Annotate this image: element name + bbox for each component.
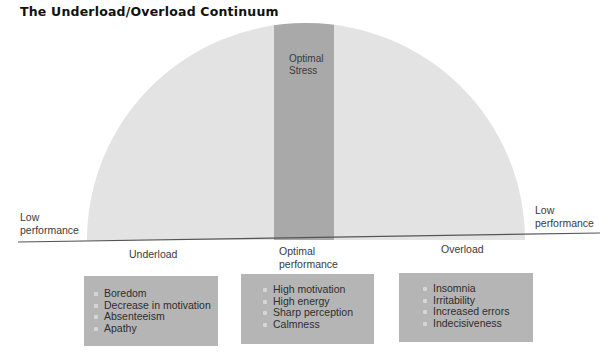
list-item: Increased errors — [423, 306, 527, 318]
right-label-line2: performance — [535, 217, 594, 230]
list-item: Insomnia — [423, 283, 527, 295]
optimal-stress-label: Optimal Stress — [289, 53, 323, 77]
right-label-line1: Low — [535, 204, 594, 217]
optimal-traits-box: High motivation High energy Sharp percep… — [241, 274, 374, 344]
list-item: Sharp perception — [263, 307, 368, 319]
list-item: Boredom — [94, 288, 212, 300]
optimal-performance-label: Optimal performance — [279, 245, 338, 271]
overload-symptoms-box: Insomnia Irritability Increased errors I… — [399, 273, 533, 342]
optimal-stress-line2: Stress — [289, 65, 323, 77]
optimal-stress-band — [274, 0, 334, 240]
list-item: Absenteeism — [94, 311, 212, 323]
left-label-line2: performance — [20, 224, 79, 237]
overload-label: Overload — [441, 243, 484, 256]
underload-symptoms-list: Boredom Decrease in motivation Absenteei… — [94, 288, 212, 334]
optimal-stress-line1: Optimal — [289, 53, 323, 65]
left-label-line1: Low — [20, 211, 79, 224]
optimal-label-line1: Optimal — [279, 245, 338, 258]
overload-symptoms-list: Insomnia Irritability Increased errors I… — [423, 283, 527, 329]
optimal-traits-list: High motivation High energy Sharp percep… — [263, 284, 368, 330]
underload-symptoms-box: Boredom Decrease in motivation Absenteei… — [84, 276, 218, 346]
left-low-performance-label: Low performance — [20, 211, 79, 237]
right-low-performance-label: Low performance — [535, 204, 594, 230]
list-item: Indecisiveness — [423, 318, 527, 330]
list-item: Calmness — [263, 319, 368, 331]
optimal-label-line2: performance — [279, 258, 338, 271]
underload-label: Underload — [129, 248, 177, 261]
list-item: High motivation — [263, 284, 368, 296]
list-item: Apathy — [94, 323, 212, 335]
